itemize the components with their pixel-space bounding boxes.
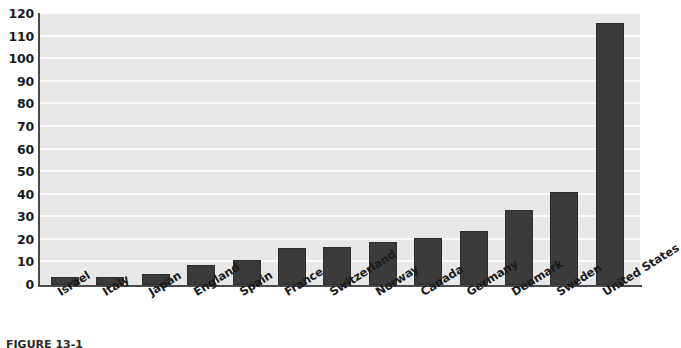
y-axis-tick-label: 110: [0, 31, 34, 43]
y-axis-tick-label: 40: [0, 189, 34, 201]
y-axis-tick-labels: 0102030405060708090100110120: [0, 0, 34, 348]
y-axis-tick-label: 100: [0, 53, 34, 65]
y-axis-tick-label: 90: [0, 76, 34, 88]
y-axis-tick-label: 30: [0, 211, 34, 223]
y-axis-tick-label: 50: [0, 166, 34, 178]
y-axis-tick-label: 60: [0, 144, 34, 156]
y-axis-tick-label: 120: [0, 8, 34, 20]
bar: [596, 23, 624, 285]
bar-series: [40, 14, 640, 285]
y-axis-tick-label: 20: [0, 234, 34, 246]
y-axis-tick-label: 0: [0, 279, 34, 291]
figure-caption: FIGURE 13-1: [6, 338, 83, 348]
x-axis-category-labels: IsraelItalyJapanEnglandSpainFranceSwitze…: [40, 287, 640, 348]
y-axis-tick-label: 10: [0, 256, 34, 268]
y-axis-tick-label: 80: [0, 98, 34, 110]
y-axis-tick-label: 70: [0, 121, 34, 133]
